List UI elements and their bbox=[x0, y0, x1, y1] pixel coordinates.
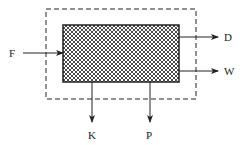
process-diagram: F D W K P bbox=[0, 0, 246, 145]
stream-k-label: K bbox=[88, 129, 96, 141]
stream-w-label: W bbox=[224, 65, 235, 77]
stream-f-label: F bbox=[9, 47, 15, 59]
process-unit bbox=[63, 25, 179, 82]
stream-p-label: P bbox=[146, 129, 152, 141]
stream-d-label: D bbox=[224, 31, 232, 43]
